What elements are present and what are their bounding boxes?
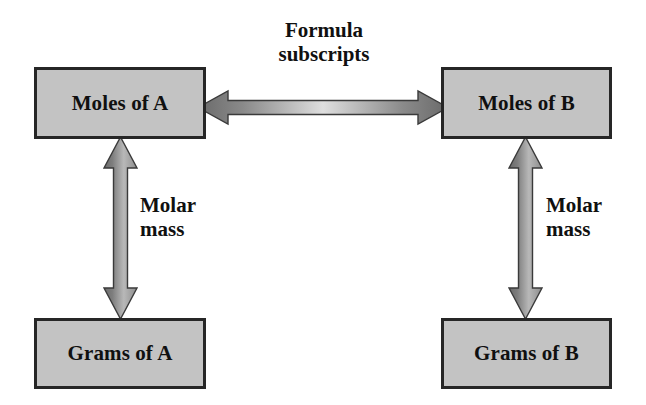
node-grams-of-b[interactable]: Grams of B xyxy=(441,318,612,389)
edge-label-molar-mass-right-line1: Molar xyxy=(546,193,632,217)
node-moles-of-a-label: Moles of A xyxy=(72,93,169,114)
edge-label-molar-mass-left: Molar mass xyxy=(140,193,226,241)
double-arrow-vertical-right-icon xyxy=(506,137,545,319)
node-grams-of-b-label: Grams of B xyxy=(474,343,579,364)
edge-label-formula-subscripts: Formula subscripts xyxy=(243,18,405,66)
double-arrow-horizontal-icon xyxy=(198,88,448,127)
double-arrow-vertical-left-icon xyxy=(101,137,140,319)
node-grams-of-a[interactable]: Grams of A xyxy=(34,318,206,389)
node-moles-of-a[interactable]: Moles of A xyxy=(34,67,206,139)
edge-label-formula-subscripts-line2: subscripts xyxy=(243,42,405,66)
node-grams-of-a-label: Grams of A xyxy=(68,343,173,364)
edge-label-formula-subscripts-line1: Formula xyxy=(243,18,405,42)
edge-label-molar-mass-left-line1: Molar xyxy=(140,193,226,217)
node-moles-of-b[interactable]: Moles of B xyxy=(441,67,612,139)
edge-label-molar-mass-left-line2: mass xyxy=(140,217,226,241)
diagram-canvas: Moles of A Moles of B Grams of A Grams o… xyxy=(0,0,646,405)
edge-label-molar-mass-right-line2: mass xyxy=(546,217,632,241)
node-moles-of-b-label: Moles of B xyxy=(478,93,575,114)
edge-label-molar-mass-right: Molar mass xyxy=(546,193,632,241)
